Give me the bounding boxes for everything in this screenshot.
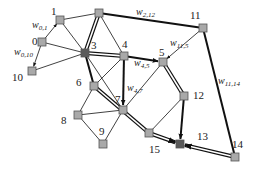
node-label: 0 bbox=[32, 35, 38, 47]
edge-3-6 bbox=[85, 53, 94, 86]
network-diagram: 013456789101112131415 w0,1w0,10w2,12w11,… bbox=[0, 0, 256, 173]
node-label: 10 bbox=[12, 71, 24, 83]
node-10: 10 bbox=[12, 67, 36, 83]
edge-2-4 bbox=[99, 13, 124, 56]
edge-8-7 bbox=[78, 110, 123, 115]
node-14: 14 bbox=[231, 138, 244, 161]
edge-9-7 bbox=[103, 110, 123, 144]
node-label: 11 bbox=[190, 9, 201, 21]
node-1: 1 bbox=[51, 5, 64, 24]
node-label: 7 bbox=[115, 93, 121, 105]
edge-4-6 bbox=[94, 56, 124, 86]
weight-label-11-14: w11,14 bbox=[218, 75, 240, 88]
node-label: 12 bbox=[193, 89, 204, 101]
node-label: 1 bbox=[51, 5, 57, 17]
edge-4-5 bbox=[124, 56, 158, 61]
node-4: 4 bbox=[120, 38, 128, 60]
node-2 bbox=[95, 9, 103, 17]
graph-canvas: 013456789101112131415 w0,1w0,10w2,12w11,… bbox=[0, 0, 256, 173]
node-11: 11 bbox=[190, 9, 207, 32]
edge-1-2 bbox=[60, 13, 99, 20]
edge-5-12 bbox=[163, 62, 184, 96]
node-label: 8 bbox=[61, 114, 67, 126]
weight-label-0-1: w0,1 bbox=[32, 19, 47, 32]
node-0: 0 bbox=[32, 35, 46, 47]
node-15: 15 bbox=[145, 129, 161, 155]
node-label: 14 bbox=[232, 138, 244, 150]
edge-0-3 bbox=[42, 42, 85, 53]
weight-label-4-7: w4,7 bbox=[127, 82, 143, 95]
edge-10-3 bbox=[32, 53, 85, 71]
node-12: 12 bbox=[180, 89, 204, 101]
node-label: 13 bbox=[197, 130, 209, 142]
weight-label-11-5: w11,5 bbox=[170, 37, 189, 50]
weight-label-0-10: w0,10 bbox=[14, 46, 33, 59]
node-label: 9 bbox=[99, 125, 105, 137]
node-8: 8 bbox=[61, 111, 82, 126]
node-6: 6 bbox=[76, 76, 98, 90]
edge-14-13 bbox=[185, 145, 235, 157]
edge-4-7 bbox=[123, 56, 124, 105]
node-label: 5 bbox=[159, 46, 165, 58]
weight-labels-layer: w0,1w0,10w2,12w11,5w4,5w4,7w11,14 bbox=[14, 6, 240, 95]
edge-1-3 bbox=[60, 20, 85, 53]
node-label: 6 bbox=[76, 76, 82, 88]
node-label: 4 bbox=[122, 38, 128, 50]
edge-12-13 bbox=[180, 96, 184, 139]
node-label: 15 bbox=[149, 143, 161, 155]
edge-12-15 bbox=[149, 96, 184, 133]
weight-label-2-12: w2,12 bbox=[136, 6, 155, 19]
node-9: 9 bbox=[99, 125, 107, 148]
node-5: 5 bbox=[159, 46, 167, 66]
edge-3-4 bbox=[85, 53, 124, 56]
node-label: 3 bbox=[91, 39, 97, 51]
